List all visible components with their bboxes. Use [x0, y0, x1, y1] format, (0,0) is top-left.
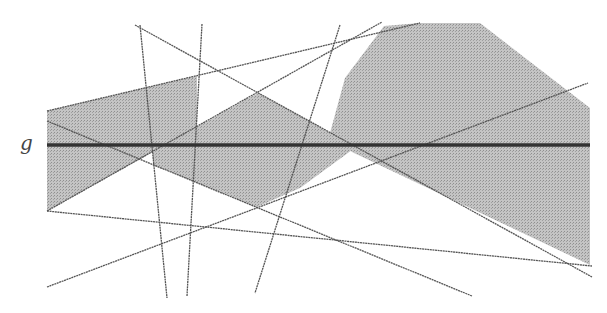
label-g: g: [20, 131, 33, 155]
diagram-canvas: [0, 0, 607, 313]
